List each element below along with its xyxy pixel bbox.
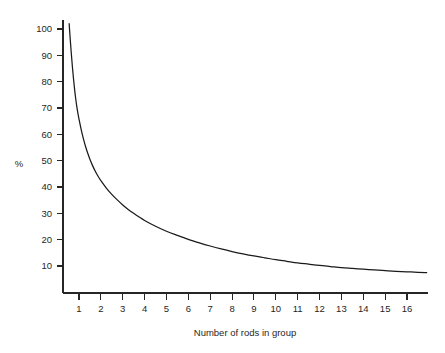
x-tick-label: 13: [336, 303, 347, 314]
y-tick-label: 80: [41, 76, 52, 87]
y-tick-label: 60: [41, 129, 52, 140]
x-tick-label: 8: [229, 303, 234, 314]
x-tick-label: 14: [358, 303, 369, 314]
x-tick-label: 16: [402, 303, 413, 314]
x-tick-label: 1: [76, 303, 81, 314]
y-tick-label: 40: [41, 181, 52, 192]
x-tick-label: 5: [164, 303, 169, 314]
chart-background: [0, 0, 445, 353]
x-tick-label: 10: [271, 303, 282, 314]
y-tick-label: 90: [41, 50, 52, 61]
y-tick-label: 20: [41, 234, 52, 245]
chart-container: 102030405060708090100 123456789101112131…: [0, 0, 445, 353]
y-tick-label: 100: [36, 23, 52, 34]
x-tick-label: 6: [186, 303, 191, 314]
y-tick-label: 10: [41, 260, 52, 271]
x-axis-title: Number of rods in group: [194, 327, 296, 338]
x-tick-label: 9: [251, 303, 256, 314]
x-tick-label: 11: [293, 303, 303, 314]
x-tick-label: 12: [314, 303, 325, 314]
y-tick-label: 50: [41, 155, 52, 166]
x-tick-label: 2: [98, 303, 103, 314]
x-tick-label: 7: [208, 303, 213, 314]
line-chart: 102030405060708090100 123456789101112131…: [0, 0, 445, 353]
y-tick-label: 30: [41, 208, 52, 219]
x-tick-label: 4: [142, 303, 147, 314]
x-tick-label: 15: [380, 303, 391, 314]
y-axis-title: %: [15, 158, 24, 169]
y-tick-label: 70: [41, 102, 52, 113]
x-tick-label: 3: [120, 303, 125, 314]
